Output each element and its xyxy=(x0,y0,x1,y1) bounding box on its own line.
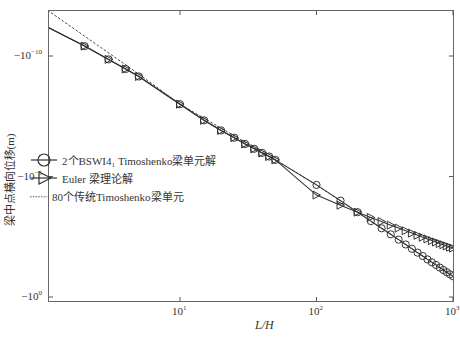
legend: 2个BSWI4₁ Timoshenko梁单元解 Euler 梁理论解 80个传统… xyxy=(30,151,217,205)
legend-item-traditional: 80个传统Timoshenko梁单元 xyxy=(30,187,217,205)
y-tick-label: −100 xyxy=(2,289,42,302)
legend-label-euler: Euler 梁理论解 xyxy=(62,170,133,186)
x-tick-label: 102 xyxy=(309,304,324,317)
circle-marker-icon xyxy=(30,152,58,168)
legend-label-traditional: 80个传统Timoshenko梁单元 xyxy=(52,188,184,204)
series-line-1 xyxy=(48,27,454,248)
dashed-line-icon xyxy=(30,188,52,204)
series-line-2 xyxy=(48,10,454,276)
y-tick-label: −10−10 xyxy=(2,48,42,61)
legend-label-bswi: 2个BSWI4₁ Timoshenko梁单元解 xyxy=(62,152,217,168)
legend-item-euler: Euler 梁理论解 xyxy=(30,169,217,187)
series-layer xyxy=(48,10,458,280)
x-axis-label: L/H xyxy=(255,318,274,333)
legend-item-bswi: 2个BSWI4₁ Timoshenko梁单元解 xyxy=(30,151,217,169)
triangle-marker-icon xyxy=(30,170,58,186)
x-tick-label: 103 xyxy=(445,304,460,317)
x-tick-label: 101 xyxy=(172,304,187,317)
